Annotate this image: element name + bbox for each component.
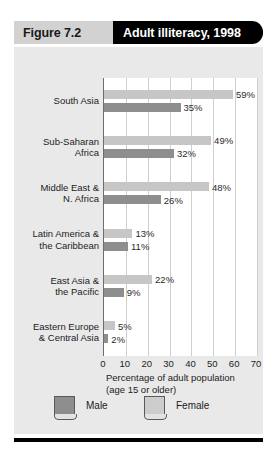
- category-label: East Asia & the Pacific: [13, 275, 99, 298]
- gridline: [257, 78, 258, 356]
- figure-number-band: Figure 7.2: [14, 21, 113, 44]
- x-axis: 010203040506070: [103, 356, 256, 370]
- bar-value-label: 26%: [164, 196, 183, 205]
- bar-value-label: 22%: [155, 275, 174, 284]
- plot-region: 59%35%49%32%48%26%13%11%22%9%5%2%: [103, 78, 257, 356]
- bar-female: [104, 275, 152, 284]
- category-label: South Asia: [13, 95, 99, 107]
- x-tick-label: 50: [207, 358, 218, 369]
- bar-group: 13%11%: [104, 217, 257, 263]
- legend-swatch-male-icon: [54, 396, 77, 421]
- bottom-rule: [14, 438, 263, 442]
- legend-label-female: Female: [176, 400, 209, 411]
- x-tick-label: 60: [229, 358, 240, 369]
- figure-number-text: Figure 7.2: [23, 26, 81, 40]
- bar-female: [104, 321, 115, 330]
- legend-item-male: Male: [54, 396, 108, 426]
- figure-panel: South AsiaSub-Saharan AfricaMiddle East …: [14, 47, 263, 434]
- legend-swatch-female-icon: [144, 396, 167, 421]
- bar-value-label: 9%: [127, 288, 141, 297]
- legend-label-male: Male: [86, 400, 108, 411]
- bar-male: [104, 195, 161, 204]
- category-label: Eastern Europe & Central Asia: [13, 321, 99, 344]
- x-tick-label: 70: [251, 358, 262, 369]
- x-tick-label: 0: [100, 358, 105, 369]
- x-tick-label: 30: [163, 358, 174, 369]
- bar-value-label: 35%: [184, 103, 203, 112]
- x-tick-label: 40: [185, 358, 196, 369]
- bar-male: [104, 288, 124, 297]
- bar-group: 5%2%: [104, 310, 257, 356]
- figure-header: Figure 7.2 Adult illiteracy, 1998: [14, 21, 263, 44]
- bar-female: [104, 90, 233, 99]
- bar-value-label: 13%: [135, 229, 154, 238]
- category-label: Latin America & the Caribbean: [13, 228, 99, 251]
- bar-value-label: 59%: [236, 90, 255, 99]
- bar-value-label: 48%: [212, 183, 231, 192]
- bar-female: [104, 229, 132, 238]
- figure-title-band: Adult illiteracy, 1998: [113, 21, 263, 44]
- bar-value-label: 11%: [131, 242, 149, 251]
- x-axis-caption: Percentage of adult population (age 15 o…: [106, 372, 266, 395]
- category-label: Middle East & N. Africa: [13, 182, 99, 205]
- category-axis-labels: South AsiaSub-Saharan AfricaMiddle East …: [14, 78, 99, 356]
- chart-legend: Male Female: [54, 396, 244, 428]
- legend-item-female: Female: [144, 396, 209, 426]
- figure-title-text: Adult illiteracy, 1998: [123, 26, 241, 40]
- x-tick-label: 20: [141, 358, 152, 369]
- bar-group: 22%9%: [104, 263, 257, 309]
- bar-group: 48%26%: [104, 171, 257, 217]
- bar-value-label: 49%: [214, 136, 233, 145]
- bar-value-label: 2%: [111, 335, 125, 344]
- chart-area: South AsiaSub-Saharan AfricaMiddle East …: [14, 47, 263, 434]
- category-label: Sub-Saharan Africa: [13, 136, 99, 159]
- bar-male: [104, 149, 174, 158]
- bar-male: [104, 242, 128, 251]
- x-tick-label: 10: [120, 358, 131, 369]
- bar-female: [104, 182, 209, 191]
- bar-male: [104, 103, 181, 112]
- figure-container: Figure 7.2 Adult illiteracy, 1998 South …: [14, 21, 263, 441]
- bar-value-label: 5%: [118, 322, 132, 331]
- bar-group: 49%32%: [104, 124, 257, 170]
- bar-female: [104, 136, 211, 145]
- bar-value-label: 32%: [177, 149, 196, 158]
- bar-male: [104, 334, 108, 343]
- bar-group: 59%35%: [104, 78, 257, 124]
